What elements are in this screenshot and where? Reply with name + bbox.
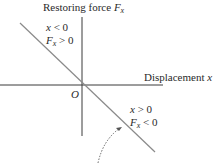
rel: < 0 <box>51 21 68 33</box>
dotted-arrow <box>98 128 120 163</box>
region-right-line2: Fx < 0 <box>130 116 158 128</box>
arrow-head-icon <box>116 127 122 131</box>
region-right-line1: x > 0 <box>130 103 152 115</box>
var: F <box>46 34 53 46</box>
y-axis-label-text: Restoring force <box>43 1 114 13</box>
region-left-line1: x < 0 <box>46 21 68 33</box>
x-axis-var: x <box>207 71 212 83</box>
x-axis-label: Displacement x <box>144 71 212 83</box>
rel: > 0 <box>135 103 152 115</box>
var: F <box>130 116 137 128</box>
x-axis-label-text: Displacement <box>144 71 207 83</box>
y-axis-var: F <box>114 1 121 13</box>
origin-label: O <box>71 88 79 100</box>
region-left-line2: Fx > 0 <box>46 34 74 46</box>
y-axis-label: Restoring force Fx <box>43 1 124 13</box>
rel: > 0 <box>56 34 73 46</box>
y-axis-sub: x <box>121 6 125 15</box>
rel: < 0 <box>140 116 157 128</box>
force-line <box>20 23 155 152</box>
